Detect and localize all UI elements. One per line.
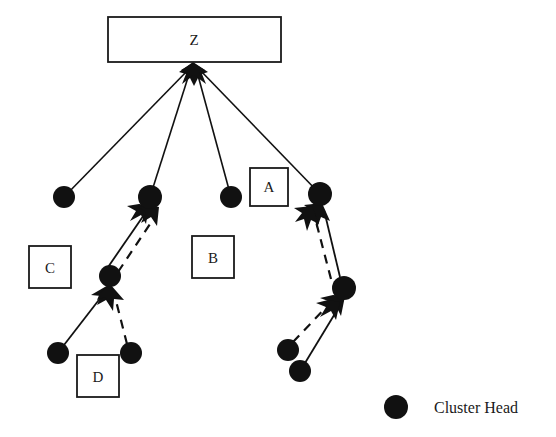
box-b-label: B xyxy=(208,250,218,266)
cluster-head-node-n9 xyxy=(277,339,299,361)
chain-right-upper xyxy=(294,203,340,279)
label-box-a: A xyxy=(250,168,288,206)
cluster-head-node-n1 xyxy=(53,186,75,208)
box-a-label: A xyxy=(264,179,275,195)
label-box-b: B xyxy=(192,236,234,278)
dashed-edge-n8-n5 xyxy=(114,293,127,344)
cluster-head-node-n6 xyxy=(332,276,356,300)
cluster-head-node-n5 xyxy=(99,265,121,287)
chain-right-lower xyxy=(293,295,345,363)
box-c-label: C xyxy=(45,260,55,276)
arrowhead-into-n6-2 xyxy=(316,300,340,320)
solid-edge-n6-n4 xyxy=(324,210,340,277)
topology-diagram: Z A B C D xyxy=(0,0,556,437)
chain-left-lower xyxy=(64,284,127,345)
label-box-d: D xyxy=(77,355,119,397)
cluster-head-node-n10 xyxy=(289,360,311,382)
legend-label: Cluster Head xyxy=(434,399,518,416)
chain-left-upper xyxy=(106,204,159,272)
solid-edge-n7-n5 xyxy=(64,292,105,345)
uplink-edge-n3-z xyxy=(196,68,231,197)
cluster-head-node-n2 xyxy=(138,185,162,209)
label-box-z: Z xyxy=(108,17,281,62)
cluster-head-node-n7 xyxy=(47,342,69,364)
legend: Cluster Head xyxy=(384,395,518,419)
box-d-label: D xyxy=(93,369,104,385)
cluster-head-node-n8 xyxy=(120,342,142,364)
diagram-canvas: Z A B C D xyxy=(0,0,556,437)
solid-edge-n5-n2 xyxy=(106,212,146,270)
label-box-c: C xyxy=(29,246,71,288)
box-z-label: Z xyxy=(189,32,198,48)
legend-cluster-head-icon xyxy=(384,395,408,419)
cluster-head-node-n4 xyxy=(308,182,332,206)
cluster-head-node-n3 xyxy=(220,186,242,208)
